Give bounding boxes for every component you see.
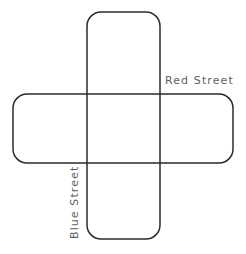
- blue-street-shape: [87, 12, 160, 239]
- red-street-label: Red Street: [165, 75, 234, 86]
- street-diagram-canvas: [0, 0, 246, 254]
- street-diagram: Red Street Blue Street: [0, 0, 246, 254]
- blue-street-label-text: Blue Street: [69, 166, 80, 239]
- red-street-shape: [13, 94, 233, 163]
- blue-street-label: Blue Street: [69, 100, 80, 173]
